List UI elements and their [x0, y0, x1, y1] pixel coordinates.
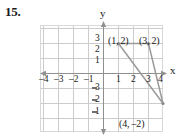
- y-tick-label-neg2: 2: [95, 94, 100, 104]
- y-tick-label-3: 3: [95, 33, 100, 43]
- y-tick-label-2: 2: [95, 44, 100, 54]
- y-tick-label-neg3: 1: [95, 106, 100, 116]
- vertex-point-c: [161, 102, 164, 105]
- vertex-label-c: (4, –2): [119, 118, 144, 129]
- coordinate-grid-figure: y x –4 –3 –2 –1 1 2 3 4 3 2 1 3 2 1 (1, …: [0, 0, 186, 140]
- x-tick-label-4: 4: [158, 74, 163, 84]
- y-tick-label-neg1: 3: [95, 82, 100, 92]
- x-tick-label-neg1: –1: [84, 74, 94, 84]
- x-tick-label-neg4: –4: [39, 74, 49, 84]
- y-tick-label-1: 1: [95, 55, 100, 65]
- vertex-label-b: (3, 2): [139, 35, 159, 46]
- x-tick-label-3: 3: [146, 74, 151, 84]
- x-axis-title: x: [170, 64, 176, 76]
- x-tick-label-2: 2: [131, 74, 136, 84]
- x-tick-label-neg3: –3: [54, 74, 64, 84]
- vertex-label-a: (1, 2): [108, 35, 128, 46]
- x-tick-label-1: 1: [116, 74, 121, 84]
- y-axis-arrow-up: [101, 21, 106, 27]
- y-axis-title: y: [100, 7, 106, 19]
- x-tick-label-neg2: –2: [69, 74, 79, 84]
- coordinate-plane-svg: [0, 0, 186, 140]
